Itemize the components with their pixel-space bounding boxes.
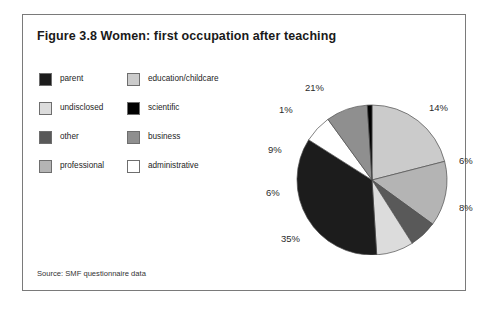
legend-swatch-icon — [39, 102, 52, 115]
pie-chart: 21%14%6%8%35%6%9%1% — [233, 60, 463, 255]
pie-chart-svg — [233, 60, 463, 255]
pie-slice-value-label: 1% — [279, 104, 293, 115]
legend-item-label: administrative — [148, 161, 199, 170]
pie-slice-value-label: 14% — [429, 102, 448, 113]
page-title: Figure 3.8 Women: first occupation after… — [37, 29, 336, 43]
legend-item-label: business — [148, 132, 180, 141]
legend-swatch-icon — [127, 160, 140, 173]
legend-swatch-icon — [39, 73, 52, 86]
chart-source-note: Source: SMF questionnaire data — [37, 269, 146, 278]
pie-slice-value-label: 21% — [305, 82, 324, 93]
pie-slice-value-label: 9% — [268, 144, 282, 155]
pie-slice-value-label: 6% — [266, 187, 280, 198]
pie-slice-value-label: 6% — [459, 155, 473, 166]
figure-container: Figure 3.8 Women: first occupation after… — [22, 14, 466, 291]
legend-item-label: scientific — [148, 103, 179, 112]
legend-item-label: education/childcare — [148, 74, 219, 83]
pie-slice-value-label: 8% — [459, 202, 473, 213]
legend-swatch-icon — [127, 102, 140, 115]
legend-swatch-icon — [127, 131, 140, 144]
legend-item-label: undisclosed — [60, 103, 103, 112]
legend-swatch-icon — [39, 160, 52, 173]
legend-item-label: professional — [60, 161, 104, 170]
legend-swatch-icon — [127, 73, 140, 86]
legend-swatch-icon — [39, 131, 52, 144]
legend-item-label: other — [60, 132, 79, 141]
legend-item-label: parent — [60, 74, 83, 83]
pie-slice-value-label: 35% — [281, 233, 300, 244]
